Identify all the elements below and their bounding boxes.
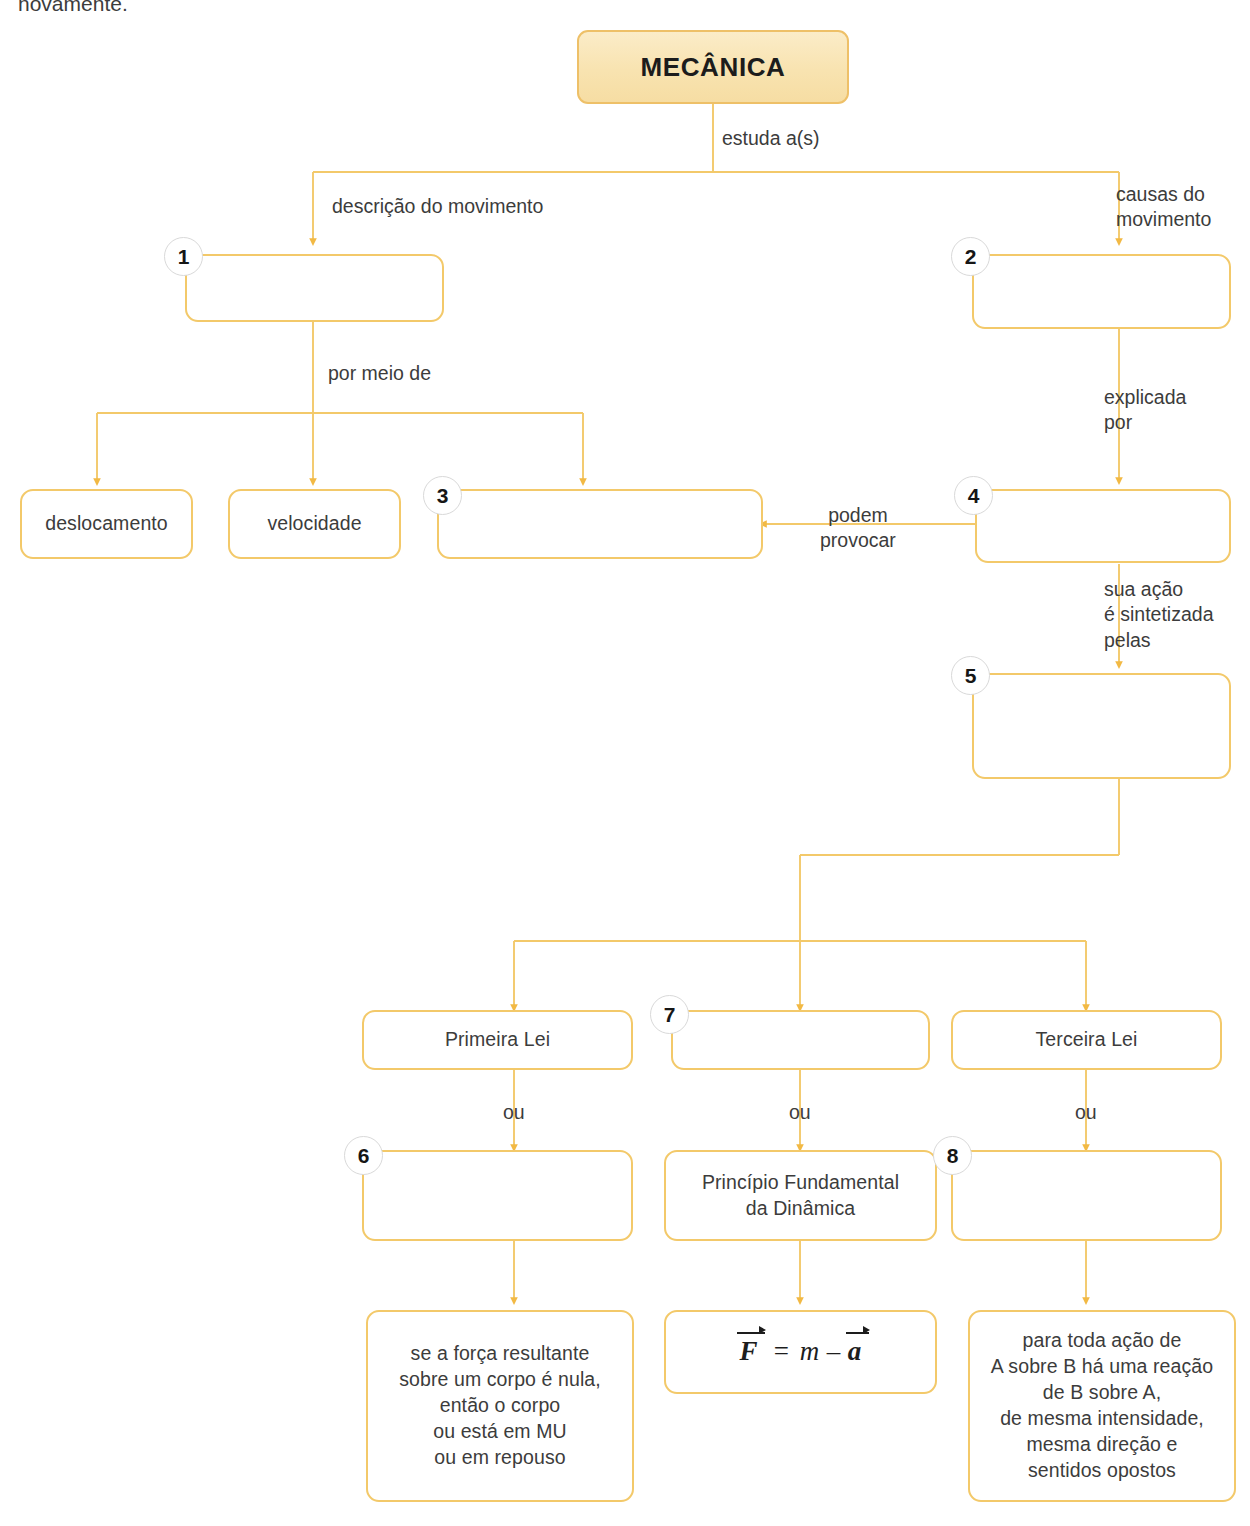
badge-8: 8 [933,1136,972,1175]
node-formula-segunda-lei[interactable]: F=m–a [664,1310,937,1394]
badge-1: 1 [164,237,203,276]
formula-text: F=m–a [739,1334,861,1370]
node-box-6[interactable] [362,1150,633,1241]
edge-label-descricao: descrição do movimento [332,194,543,219]
formula-acceleration-vector: a [848,1334,862,1370]
edge-label-podem-provocar: podem provocar [820,503,896,554]
node-box-7[interactable] [671,1010,930,1070]
node-principio-fundamental[interactable]: Princípio Fundamental da Dinâmica [664,1150,937,1241]
node-box-5[interactable] [972,673,1231,779]
node-box-2[interactable] [972,254,1231,329]
badge-3: 3 [423,476,462,515]
formula-minus: – [827,1336,841,1366]
edge-label-estuda: estuda a(s) [722,126,820,151]
node-box-4[interactable] [975,489,1231,563]
edge-label-por-meio-de: por meio de [328,361,431,386]
diagram-canvas: novamente. [0,0,1250,1526]
edge-label-sua-acao: sua ação é sintetizada pelas [1104,577,1214,653]
badge-7: 7 [650,995,689,1034]
node-primeira-lei-enunciado[interactable]: se a força resultante sobre um corpo é n… [366,1310,634,1502]
badge-6: 6 [344,1136,383,1175]
node-terceira-lei-enunciado[interactable]: para toda ação de A sobre B há uma reaçã… [968,1310,1236,1502]
edge-label-ou-right: ou [1075,1100,1097,1125]
formula-force-vector: F [739,1334,758,1370]
edge-label-ou-mid: ou [789,1100,811,1125]
badge-4: 4 [954,476,993,515]
edge-label-ou-left: ou [503,1100,525,1125]
node-velocidade[interactable]: velocidade [228,489,401,559]
node-mecanica[interactable]: MECÂNICA [577,30,849,104]
node-box-3[interactable] [437,489,763,559]
node-deslocamento[interactable]: deslocamento [20,489,193,559]
cut-off-text-top: novamente. [18,0,128,16]
formula-equals: = [772,1336,791,1366]
node-terceira-lei[interactable]: Terceira Lei [951,1010,1222,1070]
badge-5: 5 [951,656,990,695]
node-primeira-lei[interactable]: Primeira Lei [362,1010,633,1070]
badge-2: 2 [951,237,990,276]
edge-label-explicada-por: explicada por [1104,385,1186,436]
formula-mass: m [800,1336,820,1366]
node-box-8[interactable] [951,1150,1222,1241]
node-box-1[interactable] [185,254,444,322]
edge-label-causas: causas do movimento [1116,182,1211,233]
